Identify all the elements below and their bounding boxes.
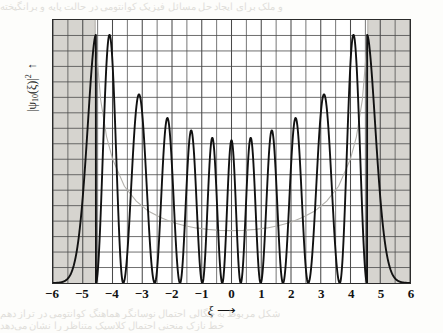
x-tick-label: −1 — [195, 286, 209, 302]
bleed-through-text-top: و ملک برای ایجاد حل مسائل فیزیک کوانتومی… — [0, 1, 443, 12]
y-axis-arrow-icon: ↑ — [25, 63, 40, 69]
x-tick-label: −4 — [105, 286, 119, 302]
x-axis-label-symbol: ξ — [208, 303, 214, 318]
figure-container: و ملک برای ایجاد حل مسائل فیزیک کوانتومی… — [0, 0, 443, 333]
x-tick-label: 2 — [288, 286, 295, 302]
x-axis-tick-labels: −6−5−4−3−2−10123456 — [52, 286, 411, 304]
x-axis-label: ξ⟶ — [0, 303, 443, 319]
plot-inner — [53, 20, 410, 283]
y-axis-label-mid: (ξ)| — [25, 78, 39, 94]
x-tick-label: 3 — [318, 286, 325, 302]
x-tick-label: −3 — [135, 286, 149, 302]
shaded-region-classically-forbidden-right — [368, 20, 410, 283]
x-tick-label: 4 — [348, 286, 355, 302]
x-axis-arrow-icon: ⟶ — [217, 303, 235, 319]
x-tick-label: −6 — [45, 286, 59, 302]
y-axis-label-subscript: 10 — [31, 94, 40, 102]
x-tick-label: 1 — [258, 286, 265, 302]
x-tick-label: 0 — [228, 286, 235, 302]
y-axis-label-prefix: |ψ — [25, 102, 39, 112]
x-tick-label: 6 — [408, 286, 415, 302]
chart-svg — [53, 20, 410, 283]
y-axis-label: |ψ10(ξ)|2↑ — [24, 22, 40, 112]
x-tick-label: −2 — [165, 286, 179, 302]
plot-area — [52, 19, 411, 284]
shaded-region-classically-forbidden-left — [53, 20, 95, 283]
y-axis-label-superscript: 2 — [24, 74, 33, 78]
x-tick-label: 5 — [378, 286, 385, 302]
x-tick-label: −5 — [75, 286, 89, 302]
bleed-through-text-bottom-2: خط نازک منحنی احتمال کلاسیک متناظر را نش… — [0, 320, 443, 331]
